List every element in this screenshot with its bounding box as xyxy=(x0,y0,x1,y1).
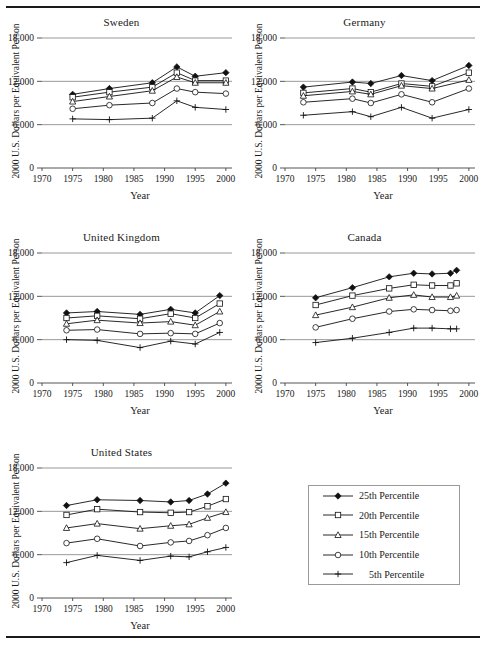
open-circle-marker xyxy=(168,540,174,546)
filled-diamond-marker xyxy=(453,267,459,273)
x-tick-label: 1980 xyxy=(94,174,113,184)
y-tick-label: 0 xyxy=(272,163,277,173)
y-tick-label: 18,000 xyxy=(8,33,34,43)
filled-diamond-marker xyxy=(447,270,453,276)
open-square-marker xyxy=(386,286,391,291)
x-tick-label: 1985 xyxy=(124,174,143,184)
x-tick-label: 2000 xyxy=(459,389,478,399)
open-circle-marker xyxy=(107,102,113,108)
chart-panel-germany: Germany2000 U.S. Dollars per Equivalent … xyxy=(243,0,486,215)
filled-diamond-marker xyxy=(174,64,180,70)
open-circle-marker xyxy=(192,89,198,95)
plus-marker xyxy=(106,116,112,122)
open-square-marker xyxy=(64,512,69,517)
open-circle-marker xyxy=(223,525,229,531)
open-circle-marker xyxy=(466,86,472,92)
open-triangle-marker xyxy=(454,292,460,298)
plus-marker xyxy=(94,552,100,558)
x-tick-label: 2000 xyxy=(459,174,478,184)
plus-marker xyxy=(217,329,223,335)
open-circle-marker xyxy=(223,91,229,97)
plot-area: 06,00012,00018,0001970197519801985199019… xyxy=(243,0,486,215)
open-square-marker xyxy=(335,513,340,518)
legend: 25th Percentile20th Percentile15th Perce… xyxy=(308,485,460,585)
x-tick-label: 1990 xyxy=(155,389,174,399)
plus-marker xyxy=(429,115,435,121)
open-triangle-marker xyxy=(217,308,223,314)
plus-marker xyxy=(300,112,306,118)
plus-marker xyxy=(398,104,404,110)
y-tick-label: 12,000 xyxy=(251,77,277,87)
open-circle-marker xyxy=(168,330,174,336)
filled-diamond-marker xyxy=(137,497,143,503)
filled-diamond-marker xyxy=(398,72,404,78)
plus-marker xyxy=(386,329,392,335)
series-line xyxy=(303,107,468,118)
open-circle-marker xyxy=(454,307,460,313)
legend-item-label: 15th Percentile xyxy=(359,529,459,540)
plus-marker xyxy=(466,106,472,112)
x-tick-label: 1990 xyxy=(155,174,174,184)
open-square-marker xyxy=(186,509,191,514)
x-tick-label: 1980 xyxy=(94,389,113,399)
legend-item[interactable]: 25th Percentile xyxy=(309,486,459,506)
x-tick-label: 1980 xyxy=(94,604,113,614)
open-circle-marker xyxy=(350,96,356,102)
y-tick-label: 6,000 xyxy=(256,335,278,345)
y-tick-label: 0 xyxy=(29,593,34,603)
open-circle-marker xyxy=(386,309,392,315)
filled-diamond-marker xyxy=(349,79,355,85)
plus-marker xyxy=(168,338,174,344)
open-square-marker xyxy=(217,301,222,306)
legend-item[interactable]: 20th Percentile xyxy=(309,506,459,526)
open-triangle-marker xyxy=(466,77,472,83)
open-circle-marker xyxy=(137,331,143,337)
y-tick-label: 0 xyxy=(29,163,34,173)
x-tick-label: 1990 xyxy=(155,604,174,614)
open-square-marker xyxy=(448,283,453,288)
legend-item[interactable]: 5th Percentile xyxy=(309,564,459,584)
x-tick-label: 1980 xyxy=(337,174,356,184)
plot-area: 06,00012,00018,0001970197519801985199019… xyxy=(0,0,243,215)
chart-panel-united-states: United States2000 U.S. Dollars per Equiv… xyxy=(0,430,243,645)
y-tick-label: 12,000 xyxy=(8,292,34,302)
legend-item[interactable]: 10th Percentile xyxy=(309,545,459,565)
open-triangle-marker xyxy=(168,318,174,324)
open-circle-marker xyxy=(150,100,156,106)
open-square-marker xyxy=(321,508,355,522)
filled-diamond-marker xyxy=(300,84,306,90)
series-line xyxy=(67,512,226,529)
open-circle-marker xyxy=(186,538,192,544)
open-circle-marker xyxy=(137,543,143,549)
plus-marker xyxy=(94,337,100,343)
series-line xyxy=(303,65,468,87)
filled-diamond-marker xyxy=(466,62,472,68)
y-tick-label: 0 xyxy=(29,378,34,388)
plus-marker xyxy=(137,344,143,350)
x-tick-label: 1970 xyxy=(276,174,295,184)
plus-marker xyxy=(335,571,341,577)
x-tick-label: 1970 xyxy=(33,174,52,184)
plus-marker xyxy=(223,106,229,112)
plus-marker xyxy=(192,341,198,347)
x-tick-label: 2000 xyxy=(216,604,235,614)
y-tick-label: 12,000 xyxy=(8,507,34,517)
open-circle-marker xyxy=(301,99,307,105)
open-circle-marker xyxy=(368,100,374,106)
filled-diamond-marker xyxy=(217,292,223,298)
open-circle-marker xyxy=(70,106,76,112)
plus-marker xyxy=(411,325,417,331)
plus-marker xyxy=(368,114,374,120)
chart-panel-canada: Canada2000 U.S. Dollars per Equivalent P… xyxy=(243,215,486,430)
plus-marker xyxy=(349,335,355,341)
x-tick-label: 1970 xyxy=(33,389,52,399)
plot-area: 06,00012,00018,0001970197519801985199019… xyxy=(0,430,243,645)
open-square-marker xyxy=(193,315,198,320)
plus-marker xyxy=(204,549,210,555)
legend-item[interactable]: 15th Percentile xyxy=(309,525,459,545)
legend-item-label: 25th Percentile xyxy=(359,490,459,501)
plus-marker xyxy=(63,336,69,342)
x-tick-label: 1970 xyxy=(33,604,52,614)
open-circle-marker xyxy=(94,327,100,333)
y-tick-label: 18,000 xyxy=(8,463,34,473)
